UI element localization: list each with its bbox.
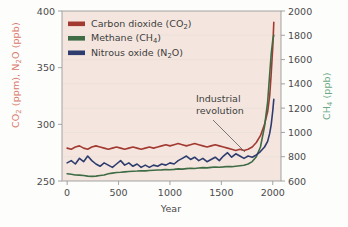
legend-swatch-2 bbox=[68, 51, 85, 56]
greenhouse-gas-line-chart: 250300350400 600800100012001400160018002… bbox=[0, 0, 348, 227]
right-axis-ticks: 600800100012001400160018002000 bbox=[281, 6, 312, 187]
left-tick-label: 250 bbox=[37, 176, 55, 187]
left-tick-label: 300 bbox=[37, 119, 55, 130]
x-axis-title: Year bbox=[160, 203, 182, 214]
left-axis-ticks: 250300350400 bbox=[37, 6, 62, 187]
right-tick-label: 1800 bbox=[288, 30, 312, 41]
right-tick-label: 2000 bbox=[288, 6, 312, 17]
x-tick-label: 0 bbox=[64, 187, 70, 198]
right-tick-label: 1200 bbox=[288, 103, 312, 114]
right-tick-label: 800 bbox=[288, 151, 306, 162]
svg-text:CH4 (ppb): CH4 (ppb) bbox=[321, 72, 334, 120]
x-tick-label: 500 bbox=[109, 187, 127, 198]
right-tick-label: 1000 bbox=[288, 127, 312, 138]
x-axis-ticks: 0500100015002000 bbox=[64, 181, 285, 198]
x-tick-label: 1000 bbox=[158, 187, 182, 198]
right-tick-label: 600 bbox=[288, 176, 306, 187]
chart-figure: 250300350400 600800100012001400160018002… bbox=[0, 0, 348, 227]
left-axis-title: CO2 (ppm), N2O (ppb) bbox=[10, 22, 23, 128]
left-tick-label: 400 bbox=[37, 6, 55, 17]
right-axis-title: CH4 (ppb) bbox=[321, 72, 334, 120]
legend-swatch-0 bbox=[68, 22, 85, 27]
left-tick-label: 350 bbox=[37, 62, 55, 73]
right-tick-label: 1600 bbox=[288, 54, 312, 65]
annotation-line-2: revolution bbox=[196, 105, 244, 116]
annotation-line-1: Industrial bbox=[196, 93, 241, 104]
x-tick-label: 1500 bbox=[209, 187, 233, 198]
legend-swatch-1 bbox=[68, 36, 85, 41]
x-tick-label: 2000 bbox=[261, 187, 285, 198]
right-tick-label: 1400 bbox=[288, 78, 312, 89]
svg-text:CO2 (ppm), N2O (ppb): CO2 (ppm), N2O (ppb) bbox=[10, 22, 23, 128]
